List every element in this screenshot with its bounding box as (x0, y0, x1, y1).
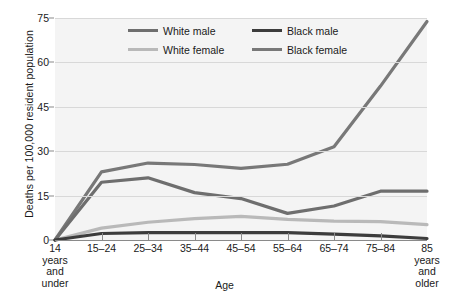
y-tick-mark (49, 18, 54, 19)
x-tick-mark (241, 233, 242, 240)
legend-swatch-icon (252, 48, 282, 52)
x-tick-mark (288, 233, 289, 240)
gridline-60 (55, 62, 427, 63)
series-line-white-male (55, 178, 427, 240)
gridline-15 (55, 196, 427, 197)
x-tick-mark (381, 233, 382, 240)
legend-swatch-icon (252, 29, 282, 33)
y-tick-mark (49, 195, 54, 196)
y-tick-label: 15 (28, 190, 49, 202)
legend-label: Black male (287, 25, 338, 37)
x-tick-label: 55–64 (273, 243, 302, 255)
y-tick-label: 45 (28, 101, 49, 113)
legend-swatch-icon (128, 48, 158, 52)
y-tick-label: 30 (28, 145, 49, 157)
legend-item-white-male[interactable]: White male (128, 25, 252, 37)
x-tick-label-line: 65–74 (319, 243, 348, 255)
x-tick-label: 25–34 (133, 243, 162, 255)
legend-item-black-male[interactable]: Black male (252, 25, 358, 37)
chart-legend: White maleBlack maleWhite femaleBlack fe… (128, 21, 358, 59)
x-tick-mark (102, 233, 103, 240)
legend-swatch-icon (128, 29, 158, 33)
gridline-45 (55, 107, 427, 108)
legend-label: Black female (287, 44, 347, 56)
x-tick-label-line: 25–34 (133, 243, 162, 255)
legend-item-black-female[interactable]: Black female (252, 44, 358, 56)
x-tick-mark (148, 233, 149, 240)
legend-item-white-female[interactable]: White female (128, 44, 252, 56)
gridline-75 (55, 18, 427, 19)
x-tick-label-line: 15–24 (87, 243, 116, 255)
x-tick-label-line: 45–54 (226, 243, 255, 255)
x-axis-label: Age (0, 279, 449, 291)
x-tick-label-line: 55–64 (273, 243, 302, 255)
legend-label: White female (163, 44, 224, 56)
y-tick-mark (49, 62, 54, 63)
chart-figure: Deaths per 100,000 resident population 0… (0, 0, 449, 305)
x-tick-label-line: 85 (414, 243, 440, 255)
x-axis-line (55, 240, 427, 241)
x-tick-label: 15–24 (87, 243, 116, 255)
gridline-30 (55, 151, 427, 152)
x-tick-label: 45–54 (226, 243, 255, 255)
x-tick-label: 35–44 (180, 243, 209, 255)
x-tick-mark (334, 233, 335, 240)
x-tick-label-line: 75–84 (366, 243, 395, 255)
y-tick-mark (49, 240, 54, 241)
x-tick-mark (195, 233, 196, 240)
x-tick-label: 65–74 (319, 243, 348, 255)
y-tick-mark (49, 151, 54, 152)
x-tick-label: 75–84 (366, 243, 395, 255)
x-tick-label-line: 14 (42, 243, 69, 255)
x-tick-label-line: 35–44 (180, 243, 209, 255)
y-tick-mark (49, 106, 54, 107)
y-tick-label: 60 (28, 56, 49, 68)
legend-label: White male (163, 25, 216, 37)
y-tick-label: 75 (28, 12, 49, 24)
